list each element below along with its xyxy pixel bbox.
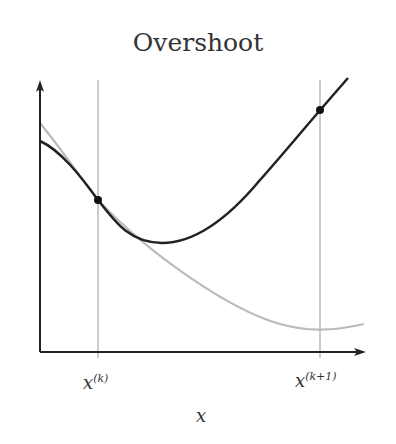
point-xk1	[316, 106, 324, 114]
point-xk	[94, 196, 102, 204]
tick-label-xk: x(k)	[83, 372, 108, 393]
objective-curve	[40, 78, 348, 243]
x-axis-label: x	[196, 405, 206, 426]
tick-label-xk1: x(k+1)	[295, 370, 337, 391]
approximation-curve	[40, 123, 364, 330]
